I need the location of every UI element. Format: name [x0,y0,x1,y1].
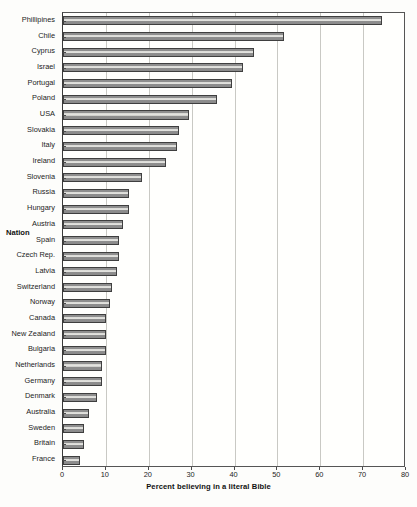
x-tick-label-60: 60 [315,471,323,479]
bar-row [63,361,404,370]
y-tick-label: USA [40,110,55,118]
x-tick-label-40: 40 [229,471,237,479]
y-tick-mark [63,131,66,132]
bars-layer [63,13,404,466]
y-tick-label: Germany [25,377,55,385]
bar-phillipines [63,16,382,25]
y-tick-label: Bulgaria [28,345,55,353]
y-tick-label: Britain [34,439,55,447]
y-tick-mark [63,209,66,210]
bar-russia [63,189,129,198]
x-tick-label-70: 70 [358,471,366,479]
x-tick-label-0: 0 [60,471,64,479]
bar-row [63,424,404,433]
bar-row [63,189,404,198]
bar-bulgaria [63,346,106,355]
bar-new-zealand [63,330,106,339]
y-tick-mark [63,303,66,304]
bar-sweden [63,424,84,433]
bar-row [63,126,404,135]
bar-britain [63,440,84,449]
plot-area [62,12,405,467]
y-tick-label: New Zealand [11,330,55,338]
y-tick-mark [63,193,66,194]
y-tick-mark [63,256,66,257]
bar-netherlands [63,361,102,370]
bar-row [63,142,404,151]
bar-austria [63,220,123,229]
y-tick-label: Slovenia [27,173,55,181]
bar-chile [63,32,284,41]
bar-row [63,456,404,465]
y-tick-label: Norway [30,298,55,306]
y-tick-mark [63,115,66,116]
x-tick-label-30: 30 [187,471,195,479]
y-axis-title: Nation [6,228,30,237]
y-tick-mark [63,37,66,38]
y-tick-mark [63,241,66,242]
y-tick-label: Hungary [27,204,55,212]
y-tick-mark [63,68,66,69]
y-tick-mark [63,146,66,147]
y-tick-label: Phillipines [22,16,55,24]
x-axis-title: Percent believing in a literal Bible [0,482,417,491]
y-tick-label: France [32,455,55,463]
bar-czech-rep [63,252,119,261]
bar-row [63,377,404,386]
y-tick-mark [63,272,66,273]
y-tick-mark [63,366,66,367]
y-tick-mark [63,444,66,445]
y-tick-mark [63,99,66,100]
bar-row [63,314,404,323]
bar-switzerland [63,283,112,292]
y-tick-label: Latvia [35,267,55,275]
bar-row [63,267,404,276]
bar-australia [63,409,89,418]
y-tick-label: Poland [32,94,55,102]
y-tick-label: Spain [36,236,55,244]
bar-row [63,205,404,214]
y-tick-mark [63,21,66,22]
bar-row [63,32,404,41]
bar-chart: PhillipinesChileCyprusIsraelPortugalPola… [0,0,417,507]
bar-row [63,440,404,449]
bar-row [63,110,404,119]
bar-row [63,16,404,25]
y-tick-mark [63,178,66,179]
bar-row [63,283,404,292]
bar-row [63,330,404,339]
y-tick-label: Austria [32,220,55,228]
bar-spain [63,236,119,245]
y-tick-mark [63,225,66,226]
y-tick-mark [63,288,66,289]
bar-slovenia [63,173,142,182]
x-tick-label-50: 50 [272,471,280,479]
y-tick-label: Russia [32,188,55,196]
bar-slovakia [63,126,179,135]
y-tick-mark [63,397,66,398]
y-tick-mark [63,162,66,163]
bar-usa [63,110,189,119]
y-tick-mark [63,429,66,430]
y-tick-mark [63,335,66,336]
y-tick-label: Cyprus [32,47,55,55]
x-axis-tick-labels: 01020304050607080 [62,467,405,481]
y-tick-label: Netherlands [15,361,55,369]
x-tick-label-10: 10 [101,471,109,479]
y-tick-label: Chile [38,32,55,40]
x-tick-label-20: 20 [144,471,152,479]
y-tick-label: Portugal [27,79,55,87]
y-tick-label: Ireland [32,157,55,165]
bar-latvia [63,267,117,276]
bar-row [63,346,404,355]
y-tick-mark [63,52,66,53]
bar-row [63,173,404,182]
y-tick-label: Israel [37,63,55,71]
y-tick-label: Australia [26,408,55,416]
bar-germany [63,377,102,386]
bar-denmark [63,393,97,402]
y-tick-label: Czech Rep. [16,251,55,259]
y-tick-label: Denmark [25,392,55,400]
x-tick-label-80: 80 [401,471,409,479]
y-tick-label: Sweden [28,424,55,432]
